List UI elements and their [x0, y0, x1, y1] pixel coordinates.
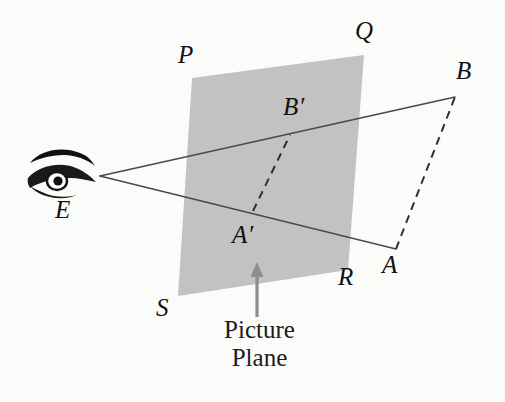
- label-B-prime: B′: [283, 94, 305, 119]
- label-R: R: [338, 264, 353, 289]
- picture-plane-quad: [178, 55, 364, 296]
- figure-canvas: P Q R S B A B′ A′ E Picture Plane: [0, 0, 505, 402]
- label-A: A: [382, 252, 397, 277]
- label-Q: Q: [355, 18, 373, 43]
- caption-line-1: Picture: [192, 316, 327, 344]
- eye-icon: [28, 150, 96, 199]
- picture-plane-caption: Picture Plane: [192, 316, 327, 372]
- object-segment-A-B: [396, 97, 455, 249]
- label-A-prime: A′: [232, 222, 254, 247]
- label-B: B: [456, 58, 471, 83]
- label-E: E: [55, 197, 70, 222]
- label-P: P: [178, 42, 193, 67]
- label-S: S: [156, 295, 169, 320]
- caption-line-2: Plane: [192, 344, 327, 372]
